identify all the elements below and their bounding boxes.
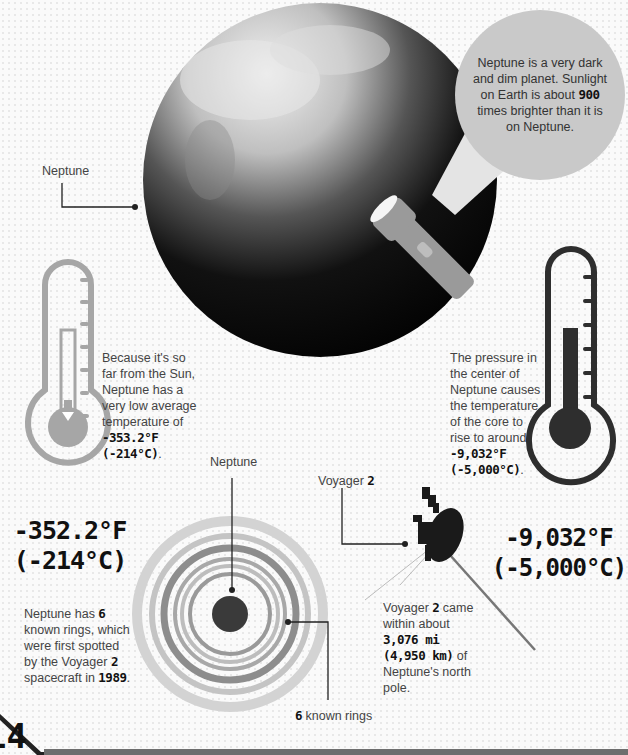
- right-desc-end: .: [520, 463, 523, 477]
- left-temp-f: -352.2°F: [0, 516, 140, 546]
- rings-desc-4: .: [126, 671, 129, 685]
- rings-description: Neptune has 6 known rings, which were fi…: [24, 606, 134, 686]
- neptune-leader-line: [62, 183, 135, 207]
- voyager-desc-1: Voyager: [383, 601, 432, 615]
- voyager-label-num: 2: [367, 473, 374, 488]
- voyager-label: Voyager 2: [318, 473, 374, 489]
- voyager-label-text: Voyager: [318, 474, 367, 488]
- callout-highlight: 900: [578, 87, 599, 102]
- left-temp-c: (-214°C): [0, 546, 140, 576]
- left-desc-text: Because it's so far from the Sun, Neptun…: [102, 351, 197, 429]
- page-number: 14: [0, 718, 27, 754]
- left-temp-description: Because it's so far from the Sun, Neptun…: [102, 350, 197, 462]
- rings-desc-voyager-num: 2: [111, 654, 118, 669]
- rings-neptune-label: Neptune: [210, 454, 257, 470]
- brightness-callout: Neptune is a very dark and dim planet. S…: [455, 10, 625, 180]
- rings-desc-1: Neptune has: [24, 607, 98, 621]
- rings-count-label: 6 known rings: [295, 708, 372, 724]
- voyager-description: Voyager 2 came within about 3,076 mi (4,…: [383, 600, 488, 696]
- right-desc-text: The pressure in the center of Neptune ca…: [450, 351, 540, 445]
- rings-count-number: 6: [295, 708, 302, 723]
- rings-desc-year: 1989: [98, 670, 126, 685]
- right-temp-c: (-5,000°C): [490, 553, 628, 583]
- right-temp-description: The pressure in the center of Neptune ca…: [450, 350, 545, 478]
- ring-planet-dot: [212, 596, 248, 632]
- left-temp-big: -352.2°F (-214°C): [0, 516, 140, 576]
- right-temp-big: -9,032°F (-5,000°C): [490, 523, 628, 583]
- rings-desc-3: spacecraft in: [24, 671, 98, 685]
- voyager-desc-distance: 3,076 mi (4,950 km): [383, 632, 453, 663]
- rings-count-text: known rings: [302, 709, 372, 723]
- rings-desc-count: 6: [98, 606, 105, 621]
- right-temp-f: -9,032°F: [490, 523, 628, 553]
- voyager-leader-line: [342, 488, 405, 544]
- left-desc-highlight: -353.2°F (-214°C): [102, 430, 158, 461]
- right-desc-highlight: -9,032°F (-5,000°C): [450, 446, 520, 477]
- callout-text-end: times brighter than it is on Neptune.: [477, 104, 603, 134]
- neptune-label: Neptune: [42, 163, 89, 179]
- left-desc-end: .: [158, 447, 161, 461]
